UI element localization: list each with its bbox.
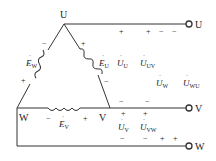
uvw-minus-top: − — [145, 97, 150, 106]
uwu-minus-top: − — [172, 27, 177, 36]
eu-label: EU — [98, 58, 110, 69]
uw-dot: · — [159, 73, 161, 79]
coil-ev-icon — [48, 108, 80, 111]
node-label-u: U — [60, 9, 68, 20]
uvw-dot: · — [143, 117, 145, 123]
uw-minus-top: − — [159, 27, 164, 36]
delta-circuit-diagram: U W V U V W − + EW · + − EU · − + EV · +… — [0, 0, 216, 161]
uwu-dot: · — [186, 73, 188, 79]
wire-ew-to-w — [17, 84, 30, 108]
node-label-w: W — [19, 112, 29, 123]
wire-u-to-ew — [48, 24, 64, 50]
uwu-label: UWU — [183, 78, 200, 89]
uv-label: UV — [118, 122, 130, 133]
uuv-plus: + — [146, 27, 151, 36]
uuv-label: UUV — [140, 58, 156, 69]
terminal-label-u: U — [195, 19, 203, 30]
eu-dot: · — [102, 53, 104, 59]
ew-minus: − — [42, 39, 47, 48]
terminal-label-v: V — [195, 103, 203, 114]
uv-dot: · — [121, 117, 123, 123]
uw-label: UW — [156, 78, 169, 89]
eu-minus: − — [104, 77, 109, 86]
eu-plus: + — [81, 39, 86, 48]
uu-plus: + — [119, 27, 124, 36]
terminal-v[interactable] — [186, 105, 192, 111]
uvw-minus: − — [143, 134, 148, 143]
terminal-label-w: W — [195, 141, 205, 152]
terminal-w[interactable] — [186, 143, 192, 149]
ew-dot: · — [29, 53, 31, 59]
ev-plus: + — [83, 114, 88, 123]
uv-minus: − — [120, 134, 125, 143]
terminal-u[interactable] — [186, 21, 192, 27]
node-label-v: V — [99, 112, 107, 123]
uu-label: UU — [117, 58, 129, 69]
uu-dot: · — [120, 53, 122, 59]
ev-minus: − — [46, 114, 51, 123]
uv-minus-top: − — [119, 97, 124, 106]
ew-plus: + — [21, 76, 26, 85]
uuv-dot: · — [143, 53, 145, 59]
ev-dot: · — [62, 114, 64, 120]
uw-plus: + — [160, 134, 165, 143]
uwu-plus: + — [173, 134, 178, 143]
wire-u-to-eu — [64, 24, 80, 49]
uvw-label: UVW — [140, 122, 157, 133]
ev-label: EV — [58, 119, 70, 130]
ew-label: EW — [25, 58, 38, 69]
